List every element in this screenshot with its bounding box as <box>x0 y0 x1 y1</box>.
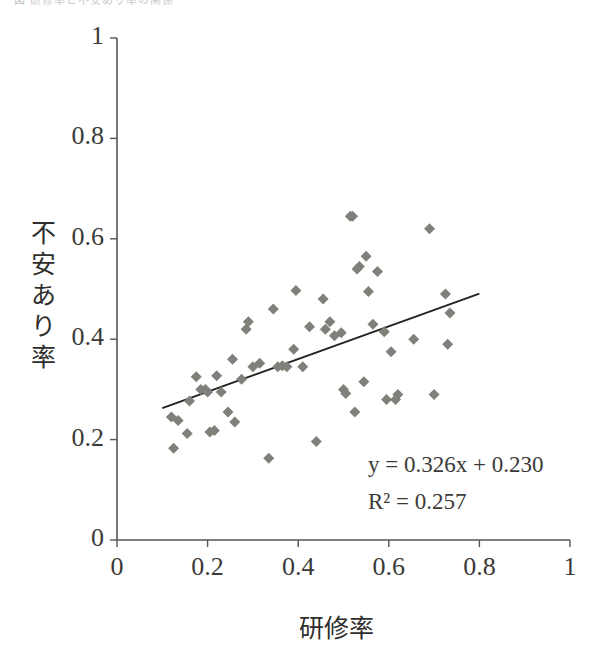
data-point <box>268 304 279 315</box>
data-point <box>227 354 238 365</box>
data-points <box>166 211 456 464</box>
x-axis-title: 研修率 <box>0 608 613 644</box>
data-point <box>442 339 453 350</box>
data-point <box>263 453 274 464</box>
r-squared-value: R² = 0.257 <box>368 483 543 520</box>
y-axis-title-char: あ <box>26 280 60 311</box>
data-point <box>229 417 240 428</box>
x-tick-label: 0.8 <box>449 552 509 582</box>
scatter-chart: 不安あり率 研修率 y = 0.326x + 0.230 R² = 0.257 … <box>0 0 613 655</box>
data-point <box>297 361 308 372</box>
y-tick-label: 1 <box>44 21 104 51</box>
y-tick-label: 0.2 <box>44 423 104 453</box>
data-point <box>361 251 372 262</box>
data-point <box>363 286 374 297</box>
x-tick-label: 1 <box>540 552 600 582</box>
y-tick-label: 0.8 <box>44 121 104 151</box>
data-point <box>288 344 299 355</box>
data-point <box>168 443 179 454</box>
regression-equation: y = 0.326x + 0.230 <box>368 446 543 483</box>
data-point <box>358 376 369 387</box>
regression-annotation: y = 0.326x + 0.230 R² = 0.257 <box>368 446 543 520</box>
data-point <box>367 319 378 330</box>
data-point <box>182 428 193 439</box>
data-point <box>386 346 397 357</box>
figure-root: 図 研修率と不安あり率の関係 不安あり率 研修率 y = 0.326x + 0.… <box>0 0 613 655</box>
data-point <box>290 285 301 296</box>
data-point <box>318 294 329 305</box>
data-point <box>349 406 360 417</box>
y-tick-label: 0 <box>44 523 104 553</box>
data-point <box>440 289 451 300</box>
data-point <box>311 436 322 447</box>
y-tick-label: 0.6 <box>44 222 104 252</box>
data-point <box>304 321 315 332</box>
data-point <box>408 334 419 345</box>
data-point <box>211 370 222 381</box>
y-axis-title-char: 安 <box>26 249 60 280</box>
data-point <box>372 266 383 277</box>
data-point <box>429 389 440 400</box>
x-tick-label: 0.2 <box>178 552 238 582</box>
data-point <box>191 371 202 382</box>
x-tick-label: 0.4 <box>268 552 328 582</box>
x-tick-label: 0.6 <box>359 552 419 582</box>
y-tick-label: 0.4 <box>44 322 104 352</box>
data-point <box>444 308 455 319</box>
data-point <box>379 326 390 337</box>
x-tick-label: 0 <box>87 552 147 582</box>
data-point <box>424 223 435 234</box>
data-point <box>222 406 233 417</box>
data-point <box>236 374 247 385</box>
